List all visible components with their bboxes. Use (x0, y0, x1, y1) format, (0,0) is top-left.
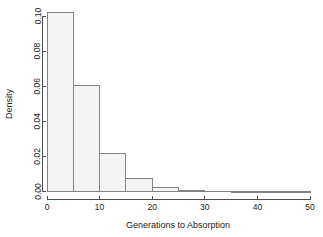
x-axis-tick-label: 50 (305, 202, 315, 212)
x-axis-tick-label: 10 (95, 202, 105, 212)
x-axis-tick-label: 30 (200, 202, 210, 212)
y-axis-title: Density (4, 88, 14, 119)
histogram-bar (284, 192, 310, 193)
histogram-plot: 01020304050 0.000.020.040.060.080.10 Gen… (0, 0, 323, 237)
y-axis-tick-label: 0.04 (33, 113, 43, 130)
histogram-bar (126, 178, 152, 191)
histogram-bar (231, 192, 257, 193)
y-axis-tick-label: 0.08 (33, 43, 43, 60)
x-axis-tick-label: 40 (253, 202, 263, 212)
histogram-bar (152, 187, 178, 191)
y-axis-tick-label: 0.10 (33, 7, 43, 24)
histogram-bar (257, 192, 283, 193)
y-axis-tick-label: 0.00 (33, 183, 43, 200)
y-axis-tick-label: 0.02 (33, 148, 43, 165)
y-axis-tick-label: 0.06 (33, 78, 43, 95)
x-axis-tick-label: 20 (147, 202, 157, 212)
histogram-bar (100, 154, 126, 192)
histogram-bar (47, 12, 73, 191)
x-axis-tick-label: 0 (45, 202, 50, 212)
histogram-bar (205, 191, 231, 192)
histogram-bar (73, 85, 99, 191)
histogram-svg: 01020304050 0.000.020.040.060.080.10 Gen… (0, 0, 323, 237)
x-axis-title: Generations to Absorption (126, 220, 230, 230)
histogram-bar (179, 190, 205, 191)
